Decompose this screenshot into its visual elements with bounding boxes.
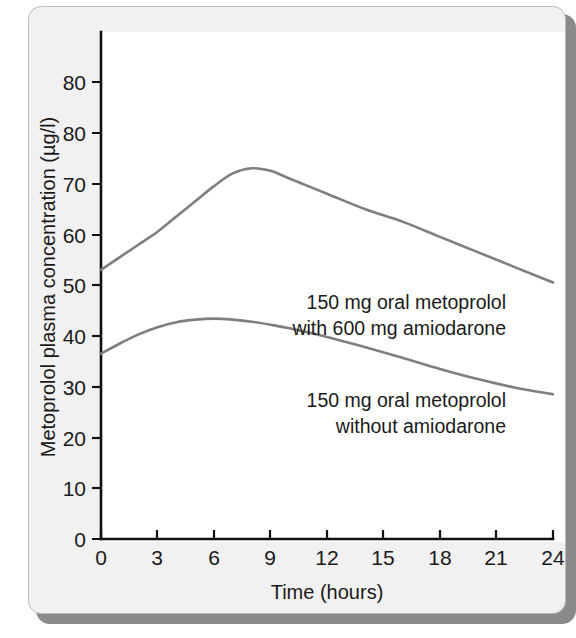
chart-panel: 0 10 20 30 40 50 60 70 80 80 [28, 6, 566, 614]
figure-root: 0 10 20 30 40 50 60 70 80 80 [0, 0, 576, 638]
x-tick-label: 24 [541, 546, 565, 569]
annotation-line: without amiodarone [335, 415, 506, 437]
x-tick-label: 3 [151, 546, 163, 569]
y-axis-title: Metoprolol plasma concentration (µg/l) [37, 117, 59, 458]
x-tick-label: 0 [95, 546, 107, 569]
x-axis-ticks [101, 530, 553, 539]
x-tick-label: 9 [264, 546, 276, 569]
series-group [101, 168, 553, 394]
y-tick-label: 50 [63, 274, 86, 297]
x-tick-label: 18 [428, 546, 451, 569]
y-tick-label: 0 [74, 528, 86, 551]
y-axis-ticks [92, 82, 101, 539]
y-tick-label: 20 [63, 427, 86, 450]
y-tick-label: 30 [63, 376, 86, 399]
x-axis-title: Time (hours) [271, 581, 384, 603]
annotation-line: 150 mg oral metoprolol [307, 291, 506, 313]
x-tick-label: 15 [371, 546, 394, 569]
y-tick-label: 80 [63, 122, 86, 145]
x-tick-label: 12 [315, 546, 338, 569]
y-tick-label: 10 [63, 477, 86, 500]
annotation-line: 150 mg oral metoprolol [307, 389, 506, 411]
series-line-with-amiodarone [101, 168, 553, 282]
line-chart: 0 10 20 30 40 50 60 70 80 80 [29, 7, 566, 614]
y-tick-label: 80 [63, 71, 86, 94]
y-tick-label: 60 [63, 224, 86, 247]
annotation-without-amiodarone: 150 mg oral metoprolol without amiodaron… [307, 389, 506, 437]
annotation-with-amiodarone: 150 mg oral metoprolol with 600 mg amiod… [291, 291, 506, 339]
y-tick-label: 40 [63, 325, 86, 348]
annotation-line: with 600 mg amiodarone [291, 317, 506, 339]
x-tick-label: 6 [208, 546, 220, 569]
y-axis-tick-labels: 0 10 20 30 40 50 60 70 80 80 [63, 71, 86, 551]
axes-group [101, 32, 553, 539]
x-axis-tick-labels: 0 3 6 9 12 15 18 21 24 [95, 546, 565, 569]
x-tick-label: 21 [484, 546, 507, 569]
y-tick-label: 70 [63, 173, 86, 196]
